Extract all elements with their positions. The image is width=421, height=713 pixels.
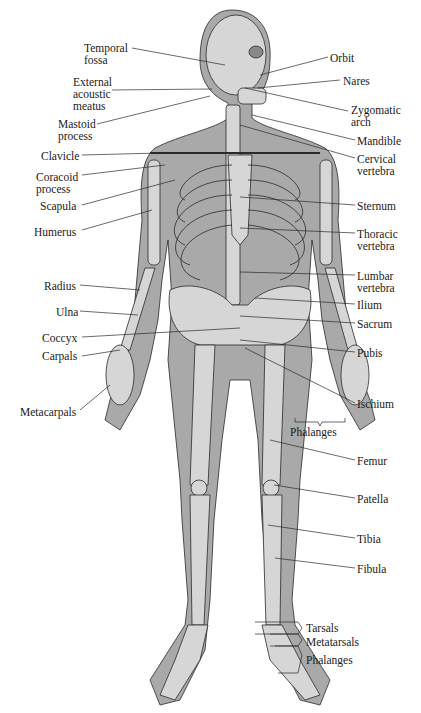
label-tibia: Tibia	[357, 533, 381, 545]
label-sacrum: Sacrum	[357, 318, 392, 330]
label-tarsals: Tarsals	[306, 622, 338, 634]
label-scapula: Scapula	[40, 200, 76, 212]
label-temporal-fossa: Temporal fossa	[84, 42, 128, 66]
label-sternum: Sternum	[357, 200, 396, 212]
label-external-acoustic-meatus: External acoustic meatus	[73, 76, 112, 112]
label-humerus: Humerus	[34, 226, 76, 238]
label-lumbar-vertebra: Lumbar vertebra	[357, 270, 395, 294]
label-orbit: Orbit	[330, 52, 354, 64]
label-metacarpals: Metacarpals	[20, 406, 76, 418]
label-phalanges-foot: Phalanges	[306, 654, 353, 666]
label-mastoid-process: Mastoid process	[58, 118, 96, 142]
label-phalanges-hand: Phalanges	[290, 426, 337, 438]
label-ischium: Ischium	[357, 398, 394, 410]
label-carpals: Carpals	[42, 350, 77, 362]
label-thoracic-vertebra: Thoracic vertebra	[357, 228, 398, 252]
label-fibula: Fibula	[357, 563, 386, 575]
label-patella: Patella	[357, 493, 388, 505]
label-metatarsals: Metatarsals	[306, 636, 359, 648]
label-ilium: Ilium	[357, 299, 382, 311]
label-coccyx: Coccyx	[42, 332, 77, 344]
label-clavicle: Clavicle	[41, 150, 79, 162]
label-pubis: Pubis	[357, 347, 383, 359]
label-ulna: Ulna	[56, 306, 78, 318]
label-coracoid-process: Coracoid process	[36, 171, 78, 195]
label-radius: Radius	[44, 280, 76, 292]
label-mandible: Mandible	[357, 135, 401, 147]
label-femur: Femur	[357, 455, 387, 467]
label-nares: Nares	[343, 75, 370, 87]
label-zygomatic-arch: Zygomatic arch	[351, 104, 401, 128]
label-cervical-vertebra: Cervical vertebra	[357, 153, 396, 177]
